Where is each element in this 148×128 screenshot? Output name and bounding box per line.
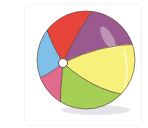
beach-ball-illustration: Colorful beach ball illustration bbox=[0, 0, 148, 128]
valve-icon bbox=[59, 59, 68, 68]
